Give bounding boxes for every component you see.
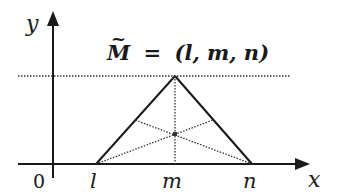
fuzzy-number-diagram [0, 0, 338, 194]
tilde-icon: ~ [111, 30, 126, 48]
title-tuple: (l, m, n) [174, 40, 269, 65]
point-n-label: n [243, 171, 257, 192]
x-axis-label: x [308, 169, 320, 191]
median-from-n [135, 120, 252, 164]
centroid-point [173, 132, 177, 136]
origin-label: 0 [33, 172, 45, 191]
point-l-label: l [90, 171, 97, 192]
triangle-left-side [96, 76, 175, 164]
y-axis-label: y [26, 13, 38, 35]
title-equals: = [144, 40, 162, 65]
fuzzy-number-title: M ~ = (l, m, n) [107, 42, 269, 63]
title-symbol: M ~ [107, 42, 130, 63]
median-from-l [96, 120, 213, 164]
triangle-right-side [175, 76, 252, 164]
point-m-label: m [162, 171, 182, 192]
y-axis-arrow-icon [47, 11, 59, 26]
